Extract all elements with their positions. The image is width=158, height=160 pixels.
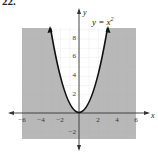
y-axis-label: y [82, 8, 87, 17]
x-axis-label: x [150, 111, 155, 120]
y-tick-8: 8 [73, 34, 77, 42]
equation-label: y = x2 [91, 16, 114, 27]
x-axis-right-arrow-icon [144, 111, 150, 115]
coordinate-plane: −6 −4 −2 2 4 6 8 6 4 2 −2 x y y = x2 [0, 0, 158, 160]
x-tick-neg6: −6 [18, 116, 26, 124]
x-tick-neg4: −4 [37, 116, 45, 124]
x-tick-4: 4 [115, 116, 119, 124]
x-tick-2: 2 [96, 116, 100, 124]
x-tick-neg2: −2 [56, 116, 64, 124]
y-axis-down-arrow-icon [77, 145, 81, 151]
graph-figure: 22. −6 −4 −2 [0, 0, 158, 160]
y-tick-6: 6 [73, 52, 77, 60]
y-axis-up-arrow-icon [77, 8, 81, 14]
y-tick-neg2: −2 [69, 128, 77, 136]
x-axis-left-arrow-icon [8, 111, 14, 115]
x-tick-6: 6 [134, 116, 138, 124]
y-tick-4: 4 [73, 71, 77, 79]
y-tick-2: 2 [73, 90, 77, 98]
